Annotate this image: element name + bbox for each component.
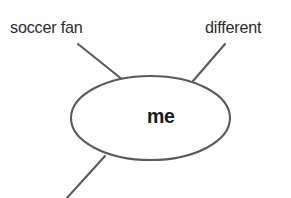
mind-map-canvas: soccer fan different me bbox=[0, 0, 291, 198]
branch-line-bottom-left bbox=[66, 156, 105, 198]
branch-line-different bbox=[193, 44, 225, 81]
center-node-label: me bbox=[77, 105, 225, 127]
branch-line-soccer-fan bbox=[78, 44, 123, 80]
branch-label-different[interactable]: different bbox=[205, 19, 261, 36]
branch-label-soccer-fan[interactable]: soccer fan bbox=[10, 19, 83, 36]
